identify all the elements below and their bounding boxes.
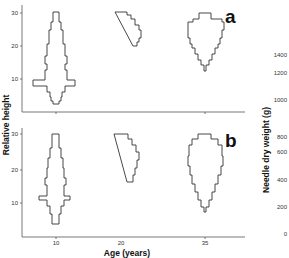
- y-tick-30-bottom: 30: [11, 131, 18, 137]
- x-tick-35: 35: [202, 240, 209, 246]
- crown-profile-35-b: [188, 134, 223, 212]
- crown-profile-10-b: [39, 134, 70, 224]
- panel-label-a: a: [225, 6, 236, 27]
- y2-tick-400: 400: [277, 177, 288, 183]
- y2-tick-1000: 1000: [274, 97, 288, 103]
- x-tick-10: 10: [53, 240, 60, 246]
- y2-tick-800: 800: [277, 134, 288, 140]
- y-tick-10-bottom: 10: [11, 200, 18, 206]
- y2-tick-600: 600: [277, 149, 288, 155]
- crown-profile-chart: 30 20 10 a 30 20 10 b 10 20 35 Age (year…: [0, 0, 289, 258]
- crown-profile-20-a: [115, 12, 141, 46]
- panel-b: 30 20 10 b: [11, 128, 245, 239]
- y-axis-label: Relative height: [1, 95, 11, 156]
- y2-axis-label: Needle dry weight (g): [261, 107, 271, 193]
- y2-tick-1400: 1400: [274, 52, 288, 58]
- panel-b-axes: [22, 128, 245, 237]
- panel-a: 30 20 10 a: [11, 5, 245, 114]
- panel-label-b: b: [225, 130, 237, 151]
- y-tick-10-top: 10: [11, 76, 18, 82]
- crown-profile-20-b: [114, 134, 139, 182]
- y2-tick-0: 0: [284, 231, 288, 237]
- y2-tick-200: 200: [277, 204, 288, 210]
- crown-profile-35-a: [188, 13, 224, 71]
- x-tick-20: 20: [118, 240, 125, 246]
- y-tick-20-bottom: 20: [11, 167, 18, 173]
- y2-tick-1200: 1200: [274, 70, 288, 76]
- y-tick-20-top: 20: [11, 43, 18, 49]
- crown-profile-10-a: [33, 12, 75, 104]
- y-tick-30-top: 30: [11, 10, 18, 16]
- x-axis-label: Age (years): [104, 248, 150, 258]
